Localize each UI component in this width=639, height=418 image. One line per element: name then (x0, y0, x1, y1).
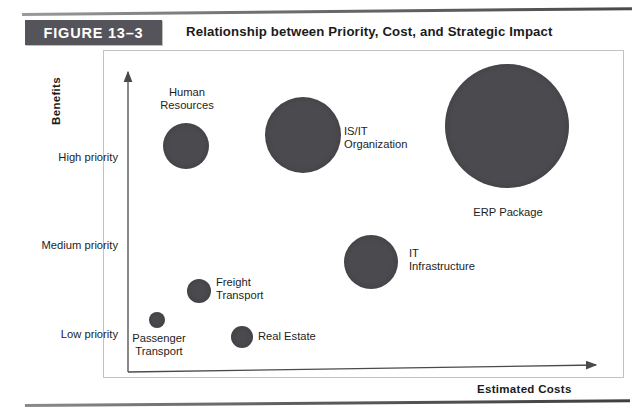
y-tick-medium-priority: Medium priority (10, 239, 118, 251)
bubble-erp-package (445, 64, 569, 188)
y-axis-title: Benefits (50, 41, 62, 161)
bubble-label-real-estate: Real Estate (258, 330, 328, 343)
bubble-label-passenger-transport: Passenger Transport (121, 332, 197, 358)
bubble-label-erp-package: ERP Package (462, 206, 554, 219)
bubble-label-freight-transport: Freight Transport (216, 276, 284, 302)
bubble-is-it-organization (265, 97, 341, 173)
bubble-label-is-it-organization: IS/IT Organization (344, 125, 424, 151)
y-tick-high-priority: High priority (10, 151, 118, 163)
bubble-real-estate (231, 326, 253, 348)
bubble-it-infrastructure (344, 235, 398, 289)
x-axis-line (128, 365, 596, 372)
y-tick-low-priority: Low priority (10, 328, 118, 340)
bubble-passenger-transport (149, 312, 165, 328)
bubble-human-resources (163, 123, 209, 169)
x-axis-title: Estimated Costs (477, 383, 572, 395)
bubble-freight-transport (187, 279, 211, 303)
bubble-label-human-resources: Human Resources (155, 86, 219, 112)
bubble-label-it-infrastructure: IT Infrastructure (409, 247, 485, 273)
